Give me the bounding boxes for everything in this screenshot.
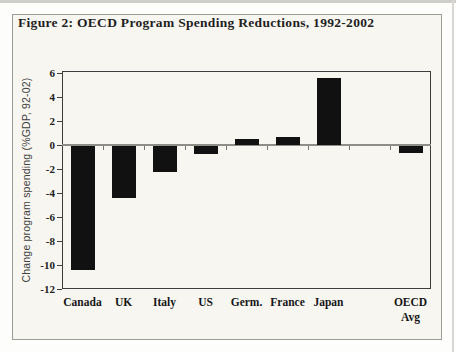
bar-canada <box>71 146 95 270</box>
y-tick-label: -6 <box>21 210 55 224</box>
y-tick <box>57 217 62 218</box>
bar-france <box>276 137 300 145</box>
category-boundary-tick <box>103 146 104 150</box>
y-tick <box>57 97 62 98</box>
figure-title: Figure 2: OECD Program Spending Reductio… <box>18 15 374 31</box>
bar-italy <box>153 146 177 172</box>
category-boundary-tick <box>308 146 309 150</box>
y-tick-label: 6 <box>21 66 55 80</box>
category-boundary-tick <box>144 146 145 150</box>
category-boundary-tick <box>226 146 227 150</box>
y-tick <box>57 121 62 122</box>
y-tick-label: -8 <box>21 234 55 248</box>
bar-us <box>194 146 218 154</box>
y-tick <box>57 241 62 242</box>
category-boundary-tick <box>185 146 186 150</box>
y-tick-label: 2 <box>21 114 55 128</box>
category-boundary-tick <box>390 146 391 150</box>
y-tick-label: -4 <box>21 186 55 200</box>
y-tick-label: 0 <box>21 138 55 152</box>
page: Figure 2: OECD Program Spending Reductio… <box>0 0 456 352</box>
bar-uk <box>112 146 136 198</box>
y-tick <box>57 289 62 290</box>
y-tick <box>57 193 62 194</box>
y-tick-label: 4 <box>21 90 55 104</box>
category-boundary-tick <box>349 146 350 150</box>
y-tick <box>57 145 62 146</box>
scan-edge-top <box>0 0 456 3</box>
bar-oecd-avg <box>399 146 423 153</box>
x-label-japan: Japan <box>301 295 357 310</box>
bar-germ <box>235 139 259 145</box>
scan-edge-right <box>452 0 454 352</box>
y-tick-label: -10 <box>21 258 55 272</box>
y-tick <box>57 265 62 266</box>
y-tick <box>57 169 62 170</box>
y-tick-label: -2 <box>21 162 55 176</box>
category-boundary-tick <box>267 146 268 150</box>
y-tick <box>57 73 62 74</box>
x-label-oecd-avg: OECD Avg <box>383 295 439 325</box>
bar-japan <box>317 78 341 145</box>
y-tick-label: -12 <box>21 282 55 296</box>
